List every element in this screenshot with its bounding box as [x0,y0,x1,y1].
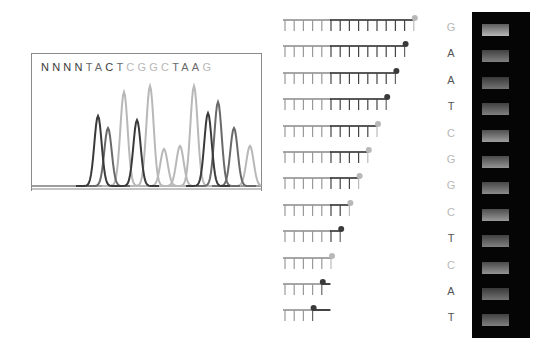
fragment-terminal-base: G [444,21,458,33]
fragment-terminal-base: G [444,179,458,191]
chromatogram-peak [142,149,186,186]
fragment-terminal-base: A [444,285,458,297]
chromatogram-panel: NNNNTACTCGGCTAAG [31,53,262,191]
gel-band [482,182,509,194]
fragment-terminal-base: T [444,232,458,244]
gel-band [482,77,509,89]
fragment-terminal-base: A [444,74,458,86]
gel-band [482,24,509,36]
chromatogram-peak [76,116,120,186]
chromatogram-peak [228,146,261,186]
dideoxy-terminator-dot [375,121,381,127]
fragment-terminal-base: A [444,47,458,59]
dideoxy-terminator-dot [384,94,390,100]
gel-band [482,314,509,326]
gel-band [482,103,509,115]
chromatogram-peak [212,128,256,186]
chromatogram-trace [32,54,261,191]
dideoxy-terminator-dot [338,226,344,232]
fragment-terminal-base: G [444,153,458,165]
gel-band [482,262,509,274]
fragment-terminal-base: C [444,127,458,139]
gel-band [482,50,509,62]
dideoxy-terminator-dot [393,68,399,74]
dideoxy-terminator-dot [329,253,335,259]
dideoxy-terminator-dot [320,279,326,285]
gel-band [482,130,509,142]
chromatogram-peak [115,120,159,186]
gel-band [482,235,509,247]
dideoxy-terminator-dot [311,305,317,311]
dideoxy-terminator-dot [366,147,372,153]
fragment-terminal-base: C [444,259,458,271]
fragment-terminal-base: T [444,100,458,112]
chromatogram-peak [172,86,216,186]
fragment-terminal-base: C [444,206,458,218]
dideoxy-terminator-dot [357,173,363,179]
gel-band [482,209,509,221]
chromatogram-peak [196,102,240,186]
dideoxy-terminator-dot [412,15,418,21]
gel-band [482,288,509,300]
gel-lane [472,12,530,338]
dideoxy-terminator-dot [347,200,353,206]
dideoxy-terminator-dot [403,41,409,47]
fragment-terminal-base: T [444,311,458,323]
gel-band [482,156,509,168]
